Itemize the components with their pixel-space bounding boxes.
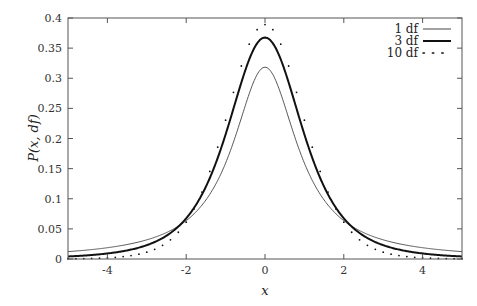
curve-point-10df [154,248,156,250]
curve-point-10df [193,208,195,210]
y-tick-label: 0.25 [38,102,63,115]
x-tick-label: 2 [340,264,347,277]
curve-point-10df [280,43,282,45]
x-tick-label: -2 [181,264,192,277]
curve-point-10df [327,191,329,193]
x-axis-label: x [261,283,269,298]
y-tick-label: 0.2 [45,133,63,146]
curve-point-10df [398,255,400,257]
curve-point-10df [359,239,361,241]
curve-point-10df [296,91,298,93]
y-tick-label: 0.4 [45,12,63,25]
curve-point-10df [367,244,369,246]
curve-point-10df [304,119,306,121]
t-distribution-chart: -4-202400.050.10.150.20.250.30.350.4 x P… [0,0,477,306]
curve-point-10df [162,244,164,246]
curve-point-10df [138,253,140,255]
curve-point-10df [343,221,345,223]
curve-point-10df [414,256,416,258]
curve-3df [68,38,462,257]
legend-label-10df: 10 df [387,46,420,60]
curve-point-10df [217,146,219,148]
curve-point-10df [351,231,353,233]
y-tick-label: 0.3 [45,72,63,85]
curve-point-10df [406,256,408,258]
legend: 1 df 3 df 10 df [387,22,451,60]
y-axis-label: P(x, df) [26,114,41,163]
curve-point-10df [288,65,290,67]
curve-point-10df [233,91,235,93]
curve-point-10df [311,146,313,148]
curve-point-10df [374,248,376,250]
curve-point-10df [335,208,337,210]
y-tick-label: 0.05 [38,223,63,236]
curve-point-10df [209,171,211,173]
y-tick-label: 0.35 [38,42,63,55]
curve-point-10df [256,29,258,31]
curve-point-10df [264,24,266,26]
curve-point-10df [177,231,179,233]
curve-point-10df [185,221,187,223]
curve-point-10df [201,191,203,193]
curve-point-10df [319,171,321,173]
curve-point-10df [248,43,250,45]
curve-point-10df [272,29,274,31]
y-tick-label: 0.1 [45,193,63,206]
curve-point-10df [114,256,116,258]
curve-point-10df [240,65,242,67]
curve-point-10df [130,255,132,257]
y-tick-label: 0 [55,253,62,266]
curve-point-10df [146,251,148,253]
curve-point-10df [122,256,124,258]
curve-1df [68,67,462,251]
x-tick-label: 0 [262,264,269,277]
x-tick-label: -4 [102,264,113,277]
curve-point-10df [382,251,384,253]
x-tick-label: 4 [419,264,426,277]
curve-point-10df [170,239,172,241]
curve-point-10df [225,119,227,121]
y-tick-label: 0.15 [38,163,63,176]
curve-point-10df [390,253,392,255]
